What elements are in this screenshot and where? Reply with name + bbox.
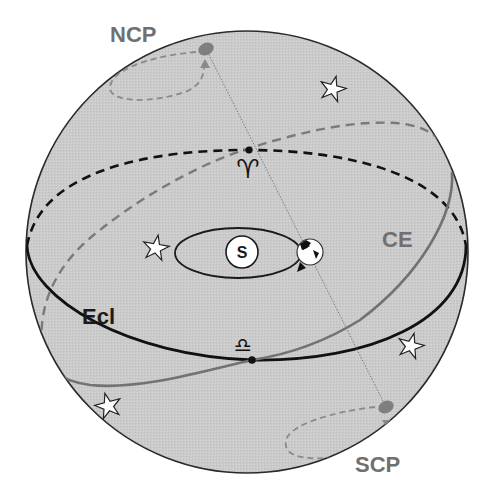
vernal-equinox-symbol: ♈ <box>236 154 259 184</box>
scp-label: SCP <box>355 452 400 477</box>
autumnal-equinox-point <box>248 356 256 364</box>
celestial-sphere-diagram: S ♈ ♎ NCP SCP Ecl <box>0 0 488 498</box>
sun-label: S <box>237 244 248 261</box>
earth <box>297 239 323 265</box>
vernal-equinox-point <box>246 147 253 154</box>
celestial-equator-label: CE <box>382 227 413 252</box>
ncp-label: NCP <box>110 22 156 47</box>
sun: S <box>226 236 258 268</box>
ecliptic-label: Ecl <box>82 304 115 329</box>
autumnal-equinox-symbol: ♎ <box>234 333 252 357</box>
